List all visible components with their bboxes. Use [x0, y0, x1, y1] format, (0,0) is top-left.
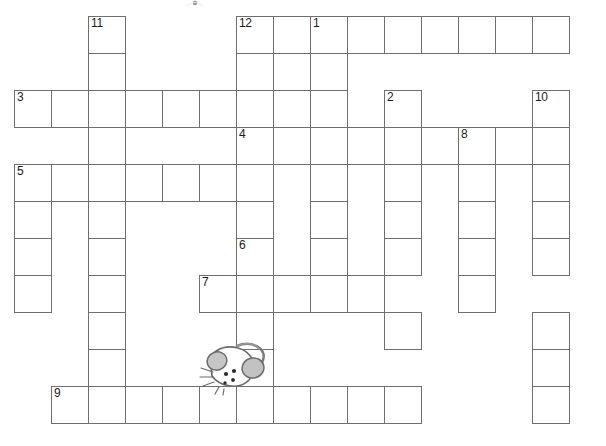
- crossword-cell[interactable]: [273, 53, 311, 91]
- crossword-cell[interactable]: [532, 238, 570, 276]
- crossword-cell[interactable]: [88, 90, 126, 128]
- crossword-cell[interactable]: [458, 275, 496, 313]
- cell-letter: [459, 165, 495, 201]
- cell-letter: [126, 165, 162, 201]
- crossword-cell[interactable]: [310, 386, 348, 424]
- cell-letter: [385, 313, 421, 349]
- crossword-cell[interactable]: 10: [532, 90, 570, 128]
- crossword-cell[interactable]: [384, 127, 422, 165]
- crossword-cell[interactable]: [162, 164, 200, 202]
- cell-letter: [237, 54, 273, 90]
- crossword-cell[interactable]: [458, 238, 496, 276]
- cell-letter: [311, 276, 347, 312]
- crossword-cell[interactable]: [125, 386, 163, 424]
- cell-letter: [200, 91, 236, 127]
- crossword-cell[interactable]: [532, 127, 570, 165]
- crossword-cell[interactable]: [532, 386, 570, 424]
- crossword-cell[interactable]: [273, 127, 311, 165]
- crossword-cell[interactable]: [14, 275, 52, 313]
- crossword-cell[interactable]: [162, 90, 200, 128]
- crossword-cell[interactable]: [310, 275, 348, 313]
- crossword-cell[interactable]: [14, 238, 52, 276]
- cell-letter: [89, 128, 125, 164]
- cell-letter: [422, 128, 458, 164]
- crossword-cell[interactable]: 1: [310, 16, 348, 54]
- crossword-cell[interactable]: [310, 201, 348, 239]
- crossword-cell[interactable]: 12: [236, 16, 274, 54]
- crossword-cell[interactable]: [347, 275, 385, 313]
- crossword-cell[interactable]: [384, 164, 422, 202]
- crossword-cell[interactable]: [14, 201, 52, 239]
- crossword-cell[interactable]: [532, 349, 570, 387]
- crossword-cell[interactable]: [51, 164, 89, 202]
- crossword-cell[interactable]: [495, 16, 533, 54]
- crossword-cell[interactable]: 9: [51, 386, 89, 424]
- crossword-cell[interactable]: [532, 312, 570, 350]
- cell-letter: [89, 54, 125, 90]
- crossword-cell[interactable]: [532, 16, 570, 54]
- crossword-cell[interactable]: [273, 16, 311, 54]
- crossword-cell[interactable]: [421, 127, 459, 165]
- crossword-cell[interactable]: [384, 238, 422, 276]
- crossword-cell[interactable]: [88, 238, 126, 276]
- cell-letter: [89, 239, 125, 275]
- crossword-cell[interactable]: [347, 16, 385, 54]
- crossword-cell[interactable]: [384, 312, 422, 350]
- cell-letter: [533, 17, 569, 53]
- cell-letter: [311, 54, 347, 90]
- crossword-cell[interactable]: 5: [14, 164, 52, 202]
- crossword-cell[interactable]: 4: [236, 127, 274, 165]
- crossword-cell[interactable]: [88, 53, 126, 91]
- crossword-cell[interactable]: [384, 386, 422, 424]
- crossword-cell[interactable]: 7: [199, 275, 237, 313]
- crossword-cell[interactable]: [88, 127, 126, 165]
- crossword-cell[interactable]: [88, 386, 126, 424]
- crossword-cell[interactable]: [458, 16, 496, 54]
- crossword-cell[interactable]: [125, 164, 163, 202]
- crossword-cell[interactable]: 3: [14, 90, 52, 128]
- cell-letter: [533, 313, 569, 349]
- crossword-cell[interactable]: [384, 16, 422, 54]
- cell-number: 12: [239, 17, 252, 30]
- crossword-cell[interactable]: [51, 90, 89, 128]
- crossword-cell[interactable]: [236, 164, 274, 202]
- cell-letter: [533, 128, 569, 164]
- crossword-cell[interactable]: [347, 386, 385, 424]
- crossword-cell[interactable]: [310, 90, 348, 128]
- crossword-cell[interactable]: [88, 349, 126, 387]
- crossword-cell[interactable]: [273, 386, 311, 424]
- crossword-cell[interactable]: [421, 16, 459, 54]
- crossword-cell[interactable]: [310, 164, 348, 202]
- crossword-grid[interactable]: 111213210485679: [0, 0, 606, 446]
- crossword-cell[interactable]: [347, 127, 385, 165]
- crossword-cell[interactable]: [199, 164, 237, 202]
- crossword-cell[interactable]: [88, 312, 126, 350]
- crossword-cell[interactable]: 6: [236, 238, 274, 276]
- crossword-cell[interactable]: [384, 201, 422, 239]
- crossword-cell[interactable]: [236, 53, 274, 91]
- crossword-cell[interactable]: [458, 164, 496, 202]
- crossword-cell[interactable]: [236, 275, 274, 313]
- cell-letter: [89, 202, 125, 238]
- crossword-cell[interactable]: [532, 201, 570, 239]
- mouse-illustration: [193, 334, 273, 396]
- cell-letter: [274, 54, 310, 90]
- crossword-cell[interactable]: 8: [458, 127, 496, 165]
- crossword-cell[interactable]: 11: [88, 16, 126, 54]
- crossword-cell[interactable]: [495, 127, 533, 165]
- crossword-cell[interactable]: [236, 90, 274, 128]
- crossword-cell[interactable]: [125, 90, 163, 128]
- crossword-cell[interactable]: [532, 164, 570, 202]
- crossword-cell[interactable]: [199, 90, 237, 128]
- cell-letter: [200, 165, 236, 201]
- crossword-cell[interactable]: [88, 201, 126, 239]
- crossword-cell[interactable]: [236, 201, 274, 239]
- crossword-cell[interactable]: [310, 238, 348, 276]
- crossword-cell[interactable]: [458, 201, 496, 239]
- crossword-cell[interactable]: [88, 164, 126, 202]
- crossword-cell[interactable]: [88, 275, 126, 313]
- crossword-cell[interactable]: [310, 127, 348, 165]
- crossword-cell[interactable]: [310, 53, 348, 91]
- crossword-cell[interactable]: 2: [384, 90, 422, 128]
- crossword-cell[interactable]: [273, 275, 311, 313]
